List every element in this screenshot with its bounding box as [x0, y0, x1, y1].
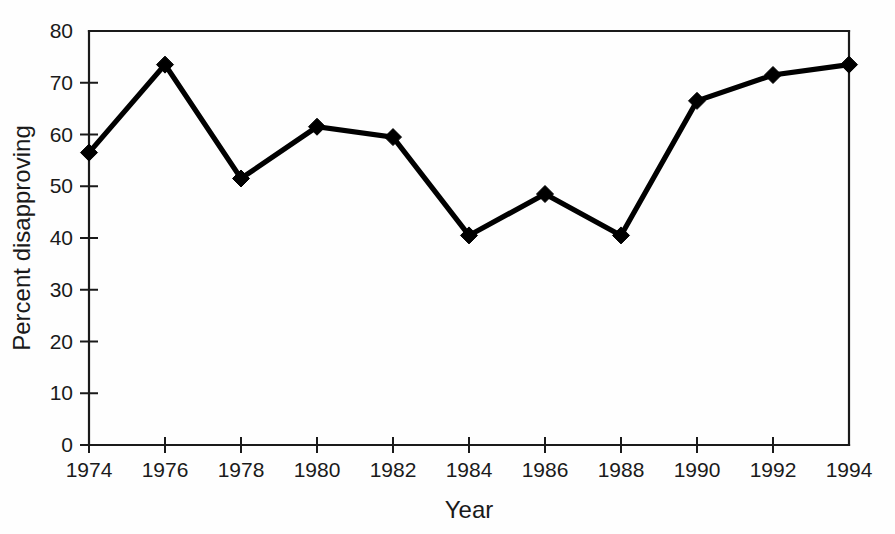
y-tick-label: 30 — [50, 278, 73, 301]
x-tick-label: 1994 — [826, 458, 873, 481]
x-tick-label: 1990 — [674, 458, 721, 481]
y-axis-ticks: 01020304050607080 — [50, 19, 98, 456]
x-tick-label: 1980 — [294, 458, 341, 481]
chart-figure: 01020304050607080 1974197619781980198219… — [0, 0, 895, 534]
data-series-line — [89, 65, 849, 236]
x-tick-label: 1984 — [446, 458, 493, 481]
x-axis-ticks: 1974197619781980198219841986198819901992… — [66, 437, 873, 481]
x-tick-label: 1974 — [66, 458, 113, 481]
y-tick-label: 70 — [50, 71, 73, 94]
y-tick-label: 50 — [50, 174, 73, 197]
x-tick-label: 1992 — [750, 458, 797, 481]
y-tick-label: 20 — [50, 330, 73, 353]
y-tick-label: 40 — [50, 226, 73, 249]
y-tick-label: 10 — [50, 381, 73, 404]
y-tick-label: 60 — [50, 123, 73, 146]
data-point-marker — [841, 56, 858, 73]
data-point-marker — [765, 66, 782, 83]
x-tick-label: 1982 — [370, 458, 417, 481]
x-tick-label: 1978 — [218, 458, 265, 481]
y-tick-label: 0 — [61, 433, 73, 456]
x-axis-title: Year — [445, 496, 494, 523]
x-tick-label: 1988 — [598, 458, 645, 481]
y-axis-title: Percent disapproving — [8, 125, 35, 350]
x-tick-label: 1986 — [522, 458, 569, 481]
line-chart: 01020304050607080 1974197619781980198219… — [0, 0, 895, 534]
y-tick-label: 80 — [50, 19, 73, 42]
x-tick-label: 1976 — [142, 458, 189, 481]
